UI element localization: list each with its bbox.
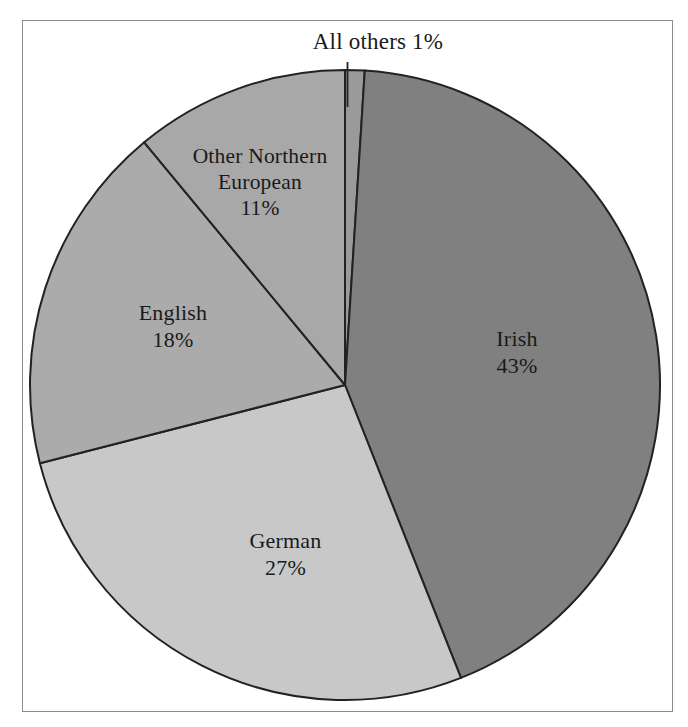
- slice-label-english-line1: English: [108, 300, 238, 327]
- slice-label-all-others-line1: All others 1%: [283, 28, 473, 56]
- slice-label-irish-line2: 43%: [462, 353, 572, 380]
- pie-chart-figure: All others 1% Other Northern European 11…: [0, 0, 688, 727]
- slice-label-all-others: All others 1%: [283, 28, 473, 56]
- slice-label-other-northern-european-line1: Other Northern: [175, 143, 345, 169]
- slice-label-irish-line1: Irish: [462, 326, 572, 353]
- slice-label-other-northern-european: Other Northern European 11%: [175, 143, 345, 222]
- slice-label-other-northern-european-line3: 11%: [175, 195, 345, 221]
- slice-label-german: German 27%: [218, 528, 353, 582]
- slice-label-german-line2: 27%: [218, 555, 353, 582]
- slice-label-other-northern-european-line2: European: [175, 169, 345, 195]
- slice-label-irish: Irish 43%: [462, 326, 572, 380]
- slice-label-english-line2: 18%: [108, 327, 238, 354]
- slice-label-english: English 18%: [108, 300, 238, 354]
- slice-label-german-line1: German: [218, 528, 353, 555]
- pie-slice-group: [30, 70, 660, 700]
- pie-chart-svg: [0, 0, 688, 727]
